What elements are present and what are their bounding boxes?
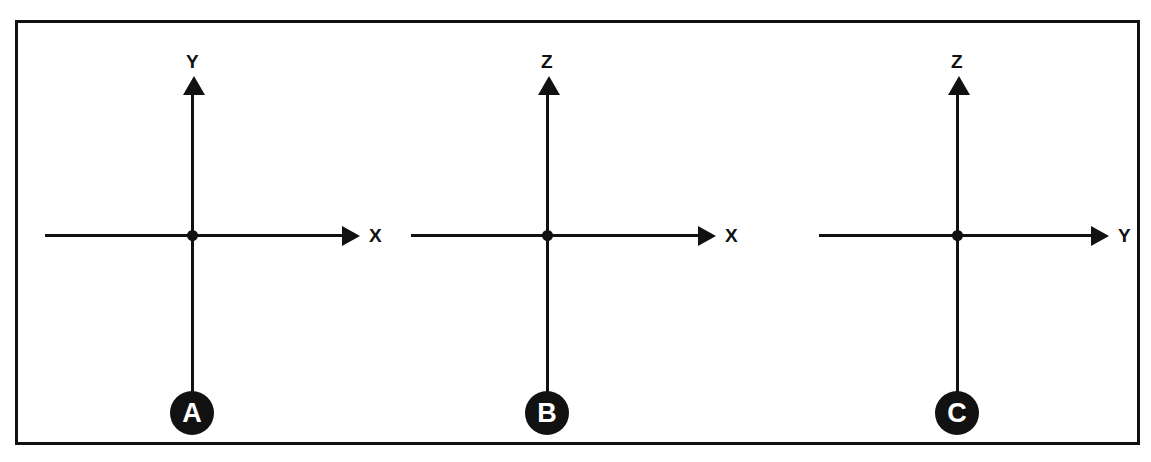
figure-frame: Y X A Z X B: [15, 20, 1140, 445]
vertical-axis-line-c: [956, 89, 959, 409]
arrow-right-icon-a: [342, 226, 360, 246]
arrow-up-icon-b: [538, 76, 560, 95]
axis-panel-a: Y X A: [18, 23, 393, 442]
arrow-up-icon-c: [948, 76, 970, 95]
arrow-right-icon-c: [1091, 226, 1109, 246]
axis-panel-b: Z X B: [393, 23, 768, 442]
panel-badge-a: A: [170, 391, 214, 435]
horizontal-axis-label-b: X: [725, 226, 738, 245]
origin-dot-icon-c: [952, 230, 963, 241]
horizontal-axis-label-a: X: [369, 226, 382, 245]
vertical-axis-line-b: [546, 89, 549, 409]
panel-badge-c: C: [935, 391, 979, 435]
vertical-axis-label-b: Z: [541, 52, 553, 71]
arrow-right-icon-b: [698, 226, 716, 246]
horizontal-axis-line-b: [411, 234, 701, 237]
horizontal-axis-label-c: Y: [1118, 226, 1131, 245]
arrow-up-icon-a: [183, 76, 205, 95]
vertical-axis-label-c: Z: [951, 52, 963, 71]
panel-badge-b: B: [525, 391, 569, 435]
figure-page: Y X A Z X B: [0, 0, 1151, 462]
axis-panel-c: Z Y C: [768, 23, 1143, 442]
origin-dot-icon-b: [542, 230, 553, 241]
vertical-axis-line-a: [191, 89, 194, 409]
origin-dot-icon-a: [187, 230, 198, 241]
vertical-axis-label-a: Y: [186, 52, 199, 71]
